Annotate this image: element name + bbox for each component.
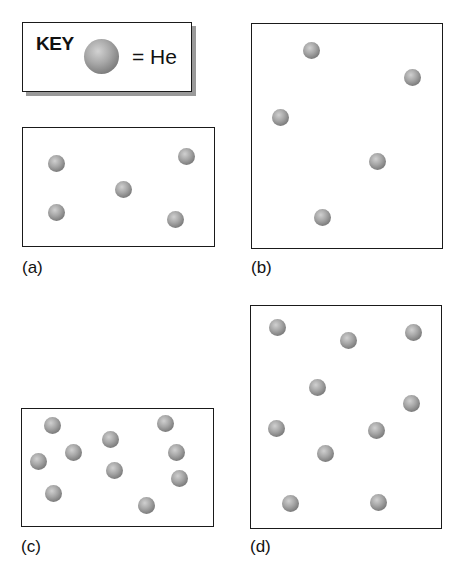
helium-atom-icon xyxy=(272,109,289,126)
helium-atom-icon xyxy=(309,379,326,396)
container-box-b xyxy=(251,23,443,249)
helium-atom-icon xyxy=(314,209,331,226)
helium-atom-icon xyxy=(303,42,320,59)
helium-atom-icon xyxy=(138,497,155,514)
key-legend: KEY = He xyxy=(22,22,192,92)
helium-atom-icon xyxy=(178,148,195,165)
helium-atom-icon xyxy=(102,431,119,448)
helium-atom-icon xyxy=(84,39,119,74)
helium-atom-icon xyxy=(168,444,185,461)
panel-label-b: (b) xyxy=(251,258,272,278)
helium-atom-icon xyxy=(157,415,174,432)
helium-atom-icon xyxy=(106,462,123,479)
helium-atom-icon xyxy=(369,153,386,170)
helium-atom-icon xyxy=(65,444,82,461)
helium-atom-icon xyxy=(45,485,62,502)
panel-label-c: (c) xyxy=(21,537,41,557)
helium-atom-icon xyxy=(340,332,357,349)
helium-atom-icon xyxy=(115,181,132,198)
helium-atom-icon xyxy=(405,324,422,341)
key-equals-label: = He xyxy=(132,45,177,69)
helium-atom-icon xyxy=(48,155,65,172)
panel-label-a: (a) xyxy=(22,258,43,278)
panel-label-d: (d) xyxy=(250,537,271,557)
helium-atom-icon xyxy=(268,420,285,437)
helium-atom-icon xyxy=(48,204,65,221)
helium-atom-icon xyxy=(370,494,387,511)
helium-atom-icon xyxy=(171,470,188,487)
helium-atom-icon xyxy=(30,453,47,470)
helium-atom-icon xyxy=(167,211,184,228)
helium-atom-icon xyxy=(269,319,286,336)
helium-atom-icon xyxy=(403,395,420,412)
helium-atom-icon xyxy=(368,422,385,439)
helium-atom-icon xyxy=(282,495,299,512)
helium-atom-icon xyxy=(317,445,334,462)
key-title: KEY xyxy=(36,33,74,55)
helium-atom-icon xyxy=(44,417,61,434)
helium-atom-icon xyxy=(404,69,421,86)
